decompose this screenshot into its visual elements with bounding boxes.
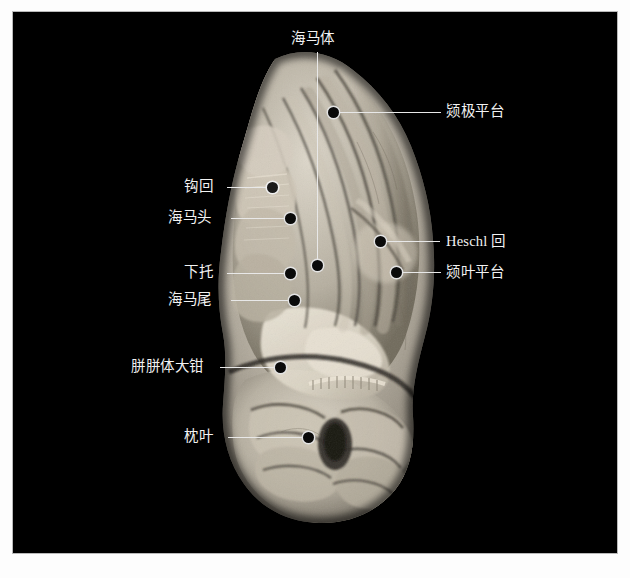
label-subiculum[interactable]: 下托 [184, 264, 213, 280]
marker-occipital-lobe[interactable] [303, 432, 314, 443]
marker-subiculum[interactable] [285, 268, 296, 279]
label-hippocampus[interactable]: 海马体 [291, 30, 335, 46]
marker-heschl-gyrus[interactable] [375, 236, 386, 247]
marker-forceps-major[interactable] [275, 362, 286, 373]
label-hippocampal-tail[interactable]: 海马尾 [168, 291, 212, 307]
label-hippocampal-head[interactable]: 海马头 [168, 209, 212, 225]
figure-root: 海马体 颎极平台 钩回 海马头 Heschl 回 下托 颎叶平台 [0, 0, 630, 578]
marker-temporal-pole-plateau[interactable] [328, 107, 339, 118]
specimen-photograph [13, 12, 617, 553]
label-occipital-lobe[interactable]: 枕叶 [184, 428, 213, 444]
label-forceps-major[interactable]: 胼胼体大钳 [131, 358, 204, 374]
label-heschl-gyrus[interactable]: Heschl 回 [446, 233, 506, 249]
label-temporal-pole-plateau[interactable]: 颎极平台 [446, 103, 504, 119]
brain-specimen-image [13, 12, 617, 553]
marker-hippocampus[interactable] [312, 260, 323, 271]
marker-uncus[interactable] [267, 182, 278, 193]
label-temporal-lobe-plateau[interactable]: 颎叶平台 [446, 264, 504, 280]
marker-hippocampal-tail[interactable] [289, 295, 300, 306]
label-uncus[interactable]: 钩回 [184, 178, 213, 194]
marker-hippocampal-head[interactable] [285, 213, 296, 224]
marker-temporal-lobe-plateau[interactable] [391, 267, 402, 278]
figure-frame: 海马体 颎极平台 钩回 海马头 Heschl 回 下托 颎叶平台 [13, 12, 617, 553]
